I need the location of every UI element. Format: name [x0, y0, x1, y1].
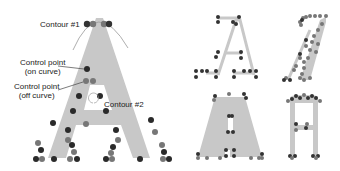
- bold-A: [196, 92, 264, 160]
- serif-A-outline: [206, 18, 254, 75]
- label-contour-1: Contour #1: [40, 20, 80, 29]
- label-control-off-curve: Control point (off curve): [14, 82, 59, 100]
- label-control-off-curve-line1: Control point: [14, 82, 59, 91]
- label-control-on-curve: Control point (on curve): [20, 58, 65, 76]
- italic-A-outline: [282, 14, 328, 82]
- label-control-off-curve-line2: (off curve): [14, 91, 59, 100]
- contour2-arrow-icon: [89, 93, 99, 103]
- narrow-A: [286, 93, 322, 160]
- label-control-on-curve-line1: Control point: [20, 58, 65, 67]
- label-control-on-curve-line2: (on curve): [20, 67, 65, 76]
- label-contour-2: Contour #2: [104, 100, 144, 109]
